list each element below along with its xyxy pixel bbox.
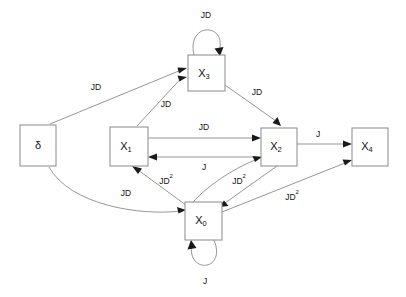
edge-label-x1-x3: JD — [161, 99, 171, 109]
node-delta-label: δ — [35, 139, 41, 151]
edge-x2-to-x0 — [219, 166, 277, 207]
edge-label-x1-x2: JD — [199, 122, 209, 132]
edge-x0-to-x1: JD2 — [132, 166, 190, 208]
edge-label-x3-self: JD — [201, 10, 211, 20]
node-x3[interactable]: X3 — [188, 55, 225, 91]
node-x0[interactable]: X0 — [185, 202, 222, 240]
node-x1[interactable]: X1 — [110, 127, 148, 166]
arrowhead-x3-x2 — [273, 117, 282, 126]
arrowhead-x2-x4 — [343, 141, 352, 148]
edge-x2-to-x4: J — [297, 129, 352, 147]
edge-label-x0-x4: JD2 — [285, 189, 299, 203]
edge-label-x2-x1: J — [202, 162, 206, 172]
arrowhead-x0-x4 — [343, 160, 353, 166]
edge-label-x0-x2: JD2 — [232, 173, 246, 187]
edge-x3-to-x2: JD — [225, 85, 281, 126]
edge-x2-to-x1: J — [148, 154, 261, 173]
edge-label-x2-x4: J — [316, 129, 320, 139]
arrowhead-x1-x2 — [252, 135, 261, 142]
edge-label-x3-x2: JD — [252, 87, 262, 97]
edge-label-x0-x1: JD2 — [159, 173, 173, 187]
node-delta[interactable]: δ — [20, 125, 56, 166]
arrowhead-x0-self — [188, 240, 197, 250]
edge-x0-self-loop: J — [188, 240, 217, 286]
edge-delta-to-x3: JD — [50, 68, 187, 125]
edge-label-delta-x0: JD — [121, 188, 131, 198]
edge-x0-to-x2: JD2 — [189, 156, 262, 207]
arrowhead-x0-x1 — [132, 166, 142, 174]
arrowhead-delta-x3 — [178, 68, 188, 74]
node-x2[interactable]: X2 — [261, 128, 297, 166]
node-x4[interactable]: X4 — [352, 128, 388, 166]
edge-x1-to-x2: JD — [148, 122, 261, 141]
edge-x3-self-loop: JD — [193, 10, 224, 56]
edge-label-x0-self: J — [203, 276, 207, 286]
edge-label-delta-x3: JD — [91, 82, 101, 92]
edge-x1-to-x3: JD — [137, 76, 187, 127]
diagram-canvas: JD JD JD JD JD J — [0, 0, 406, 297]
arrowhead-x2-x1 — [148, 154, 157, 161]
signal-flow-graph: JD JD JD JD JD J — [0, 0, 406, 297]
